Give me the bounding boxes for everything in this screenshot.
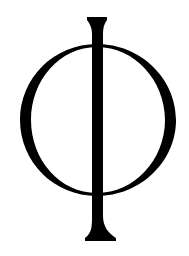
- phi-icon: [0, 0, 189, 256]
- phi-stem: [85, 17, 116, 241]
